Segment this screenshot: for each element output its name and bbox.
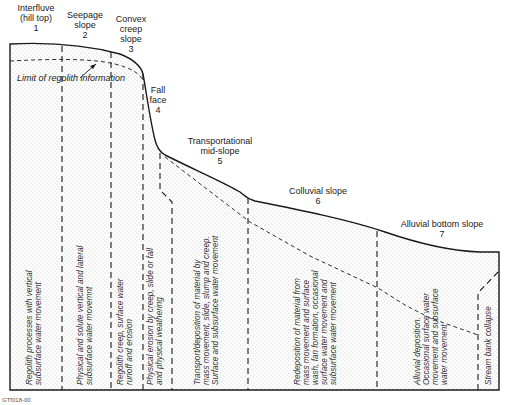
zone-7-process-line3: movement and subsurface [431,288,440,385]
zone-1-name-line2: (hill top) [20,13,52,23]
zone-2-name-line2: slope [74,20,96,30]
zone-7-process-line4: water movement [440,324,449,385]
zone-1-process-line2: subsurface water movement [34,281,43,385]
zone-6-process-line5: subsurface water movement [329,281,338,385]
zone-4-number: 4 [155,105,160,115]
zone-4-process-line2: and physical weathering [155,297,164,385]
zone-5-number: 5 [217,156,222,166]
zone-5-name-line2: mid-slope [200,146,239,156]
zone-3-name-line1: Convex [116,14,147,24]
zone-6-process-line3: wash, fan formation, occasional [311,270,320,385]
zone-1-name-line1: Interfluve [17,3,54,13]
zone-6-process-line4: surface water movement and [320,279,329,385]
zone-2-process-line1: Physical and solute vertical and lateral [76,246,85,385]
zone-2-number: 2 [82,30,87,40]
zone-3-process-line1: Regolith creep, surface water [116,278,125,385]
figure-code: GTf018-00 [2,397,31,403]
zone-6-process: Redeposition of material from mass movem… [293,270,338,385]
zone-4-name-line1: Fall [151,85,166,95]
zone-7-name-line1: Alluvial bottom slope [401,219,484,229]
zone-5-name-line1: Transportational [188,136,253,146]
zone-5-process-line2: mass movement, slide, slump and creep. [202,236,211,385]
zone-5-process-line1: Transport/deposition of material by [193,259,202,385]
zone-3-name-line3: slope [120,34,142,44]
zone-3-number: 3 [128,44,133,54]
zone-7-process-line1: Alluvial deposition. [413,317,422,386]
zone-1-number: 1 [33,23,38,33]
zone-7-number: 7 [439,229,444,239]
zone-2-name-line1: Seepage [67,10,103,20]
zone-7-process-line2: Occasional surface water [422,293,431,385]
stream-bank-process: Stream bank collapse [484,306,493,385]
zone-1-process: Regolith processes with vertical subsurf… [25,270,43,385]
stream-bank-label: Stream bank collapse [484,306,493,385]
zone-1-process-line1: Regolith processes with vertical [25,270,34,385]
zone-2-process-line2: subsurface water movemnt [85,286,94,385]
zone-4-name-line2: face [149,95,166,105]
zone-6-name-line1: Colluvial slope [289,186,347,196]
zone-6-process-line2: mass movement and surface [302,279,311,385]
regolith-limit-label: Limit of regolith information [17,73,125,83]
zone-3-name-line2: creep [120,24,143,34]
zone-6-process-line1: Redeposition of material from [293,278,302,385]
zone-6-number: 6 [315,196,320,206]
zone-3-process-line2: runoff and erosion [125,319,134,385]
hillslope-diagram: Interfluve (hill top) 1 Seepage slope 2 … [0,0,508,405]
zone-4-process-line1: Physical erosion by creep, slide or fall [146,248,155,385]
zone-5-process-line3: Surface and subsurface water movement [211,235,220,385]
